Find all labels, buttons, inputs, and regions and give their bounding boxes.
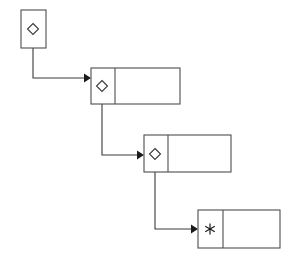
diagram-canvas [0,0,300,265]
arrow-head-icon [84,74,91,83]
list-node-1[interactable] [21,10,46,48]
linked-list-diagram [0,0,300,265]
list-node-3[interactable] [144,135,231,172]
connectors-layer [33,29,198,234]
arrow-head-icon [137,151,144,160]
list-node-2[interactable] [91,68,180,104]
list-node-4[interactable] [198,210,280,248]
arrow-head-icon [191,225,198,234]
nodes-layer [21,10,280,248]
